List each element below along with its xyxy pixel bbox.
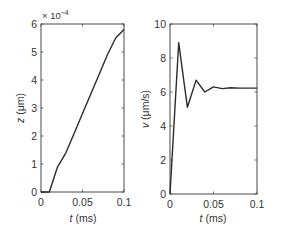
left-ticks <box>41 24 124 192</box>
y-tick-label: 4 <box>31 74 37 86</box>
right-panel: 0246810 00.050.1 v (μm/s) t (ms) <box>139 18 264 224</box>
figure: 0123456 00.050.1 × 10−4 z (μm) t (ms) 02… <box>0 0 286 238</box>
left-y-multiplier: × 10−4 <box>42 9 69 21</box>
y-tick-label: 10 <box>154 18 166 30</box>
y-tick-label: 0 <box>31 186 37 198</box>
left-series-line <box>41 30 124 192</box>
x-tick-label: 0 <box>38 196 44 208</box>
y-tick-label: 2 <box>31 130 37 142</box>
y-tick-label: 2 <box>160 154 166 166</box>
left-ytick-labels: 0123456 <box>31 18 37 198</box>
y-tick-label: 6 <box>160 86 166 98</box>
left-plot-frame <box>41 24 124 192</box>
x-tick-label: 0.05 <box>72 196 93 208</box>
x-tick-label: 0 <box>167 198 173 210</box>
y-tick-label: 6 <box>31 18 37 30</box>
left-xtick-labels: 00.050.1 <box>38 196 131 208</box>
y-tick-label: 5 <box>31 46 37 58</box>
y-tick-label: 8 <box>160 52 166 64</box>
left-panel: 0123456 00.050.1 × 10−4 z (μm) t (ms) <box>14 9 131 224</box>
right-xtick-labels: 00.050.1 <box>167 198 264 210</box>
y-tick-label: 4 <box>160 120 166 132</box>
left-x-axis-label: t (ms) <box>70 212 97 224</box>
right-ticks <box>170 24 257 194</box>
right-series-line <box>170 43 257 194</box>
x-tick-label: 0.1 <box>117 196 132 208</box>
y-tick-label: 0 <box>160 188 166 200</box>
y-tick-label: 3 <box>31 102 37 114</box>
x-tick-label: 0.05 <box>203 198 224 210</box>
y-tick-label: 1 <box>31 158 37 170</box>
right-ytick-labels: 0246810 <box>154 18 166 200</box>
right-plot-frame <box>170 24 257 194</box>
x-tick-label: 0.1 <box>250 198 265 210</box>
right-y-axis-label: v (μm/s) <box>139 90 151 128</box>
right-x-axis-label: t (ms) <box>200 212 227 224</box>
left-y-axis-label: z (μm) <box>14 93 26 124</box>
